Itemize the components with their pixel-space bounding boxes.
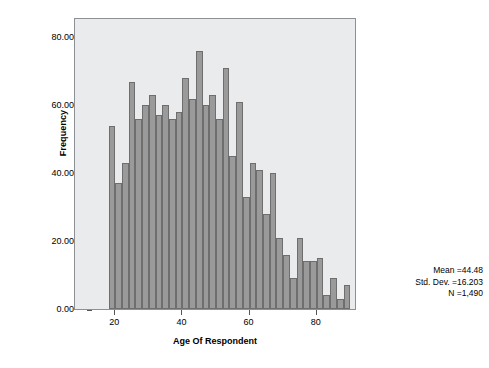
histogram-bar: [310, 261, 317, 309]
histogram-bar: [263, 214, 270, 309]
histogram-bar: [209, 95, 216, 309]
bars-layer: [75, 19, 355, 309]
histogram-bar: [129, 82, 136, 309]
stat-mean: Mean =44.48: [371, 265, 483, 277]
x-tick-label: 80: [296, 317, 336, 327]
histogram-bar: [109, 126, 116, 309]
histogram-bar: [149, 95, 156, 309]
histogram-bar: [182, 78, 189, 309]
histogram-bar: [223, 68, 230, 309]
histogram-bar: [169, 119, 176, 309]
histogram-figure: Frequency 0.0020.0040.0060.0080.00 20406…: [0, 0, 489, 368]
x-tick-label: 40: [161, 317, 201, 327]
histogram-bar: [270, 173, 277, 309]
y-tick-label: 0.00: [28, 304, 74, 314]
histogram-bar: [303, 261, 310, 309]
histogram-bar: [176, 112, 183, 309]
histogram-bar: [337, 299, 344, 309]
histogram-bar: [162, 105, 169, 309]
y-tick-label: 40.00: [28, 168, 74, 178]
histogram-bar: [216, 119, 223, 309]
histogram-bar: [229, 156, 236, 309]
histogram-bar: [297, 238, 304, 309]
histogram-bar: [290, 278, 297, 309]
y-axis-ticks: 0.0020.0040.0060.0080.00: [18, 0, 74, 368]
histogram-bar: [236, 102, 243, 309]
x-tick-mark: [249, 310, 250, 315]
histogram-bar: [323, 295, 330, 309]
histogram-bar: [135, 119, 142, 309]
x-tick-mark: [316, 310, 317, 315]
statistics-annotation: Mean =44.48 Std. Dev. =16.203 N =1,490: [371, 265, 483, 300]
x-tick-mark: [181, 310, 182, 315]
histogram-bar: [203, 105, 210, 309]
histogram-bar: [243, 197, 250, 309]
histogram-bar: [250, 163, 257, 309]
y-tick-label: 20.00: [28, 236, 74, 246]
x-tick-label: 60: [229, 317, 269, 327]
histogram-bar: [122, 163, 129, 309]
y-tick-mark: [87, 310, 92, 311]
histogram-bar: [156, 115, 163, 309]
stat-n: N =1,490: [371, 288, 483, 300]
histogram-bar: [344, 285, 351, 309]
histogram-bar: [189, 99, 196, 310]
histogram-bar: [283, 255, 290, 309]
plot-area: [74, 18, 356, 310]
y-tick-label: 80.00: [28, 32, 74, 42]
histogram-bar: [115, 183, 122, 309]
histogram-bar: [196, 51, 203, 309]
x-axis-title: Age Of Respondent: [74, 336, 356, 346]
histogram-bar: [276, 238, 283, 309]
histogram-bar: [317, 258, 324, 309]
x-tick-mark: [114, 310, 115, 315]
histogram-bar: [256, 170, 263, 309]
histogram-bar: [330, 278, 337, 309]
y-tick-label: 60.00: [28, 100, 74, 110]
x-tick-label: 20: [94, 317, 134, 327]
stat-std-dev: Std. Dev. =16.203: [371, 277, 483, 289]
histogram-bar: [142, 105, 149, 309]
